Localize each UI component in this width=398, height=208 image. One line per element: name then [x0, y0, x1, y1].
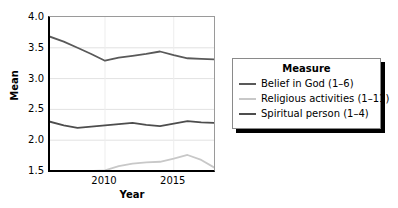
- series-line: [50, 37, 215, 61]
- chart-figure: Mean 4.03.53.02.52.01.5 20102015 Year Me…: [0, 0, 398, 208]
- legend-items: Belief in God (1–6)Religious activities …: [239, 76, 374, 121]
- x-tick-label: 2015: [153, 175, 193, 186]
- y-tick-label: 1.5: [18, 166, 44, 176]
- legend-item: Belief in God (1–6): [239, 76, 374, 91]
- y-axis-tick-labels: 4.03.53.02.52.01.5: [14, 0, 44, 208]
- x-tick-label: 2010: [84, 175, 124, 186]
- series-line: [50, 155, 215, 171]
- legend-line-swatch: [239, 113, 256, 115]
- series-line: [50, 121, 215, 128]
- legend-item-label: Spiritual person (1–4): [261, 108, 369, 119]
- y-tick-label: 2.0: [18, 135, 44, 145]
- y-tick-label: 3.5: [18, 43, 44, 53]
- y-tick-label: 2.5: [18, 104, 44, 114]
- plot-area: [48, 16, 215, 172]
- chart-legend: Measure Belief in God (1–6)Religious act…: [232, 58, 381, 129]
- legend-line-swatch: [239, 98, 256, 100]
- plot-lines: [50, 17, 215, 171]
- legend-item-label: Religious activities (1–11): [261, 93, 389, 104]
- legend-item: Spiritual person (1–4): [239, 106, 374, 121]
- y-tick-label: 4.0: [18, 12, 44, 22]
- legend-line-swatch: [239, 83, 256, 85]
- x-axis-title: Year: [48, 189, 216, 200]
- legend-title: Measure: [239, 63, 374, 74]
- legend-item-label: Belief in God (1–6): [261, 78, 354, 89]
- y-tick-label: 3.0: [18, 74, 44, 84]
- legend-item: Religious activities (1–11): [239, 91, 374, 106]
